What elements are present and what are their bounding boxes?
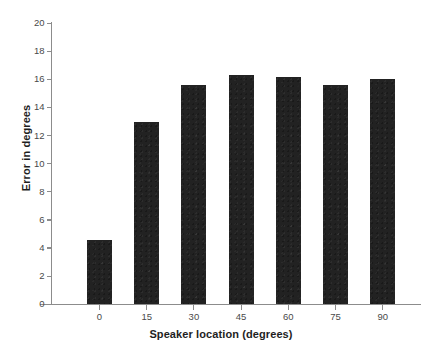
x-tick-mark [241, 305, 242, 310]
x-tick-mark [288, 305, 289, 310]
x-tick-label: 75 [330, 312, 341, 322]
bar [87, 240, 112, 305]
x-axis-title: Speaker location (degrees) [0, 328, 442, 340]
x-tick-label: 60 [283, 312, 294, 322]
bar [323, 85, 348, 304]
x-tick-mark [193, 305, 194, 310]
bar [134, 122, 159, 305]
x-tick-label: 90 [377, 312, 388, 322]
x-tick-label: 30 [189, 312, 200, 322]
x-tick-mark [146, 305, 147, 310]
bar [181, 85, 206, 304]
x-tick-label: 15 [141, 312, 152, 322]
x-tick-label: 0 [97, 312, 102, 322]
x-tick-mark [335, 305, 336, 310]
bar [370, 79, 395, 304]
x-tick-mark [99, 305, 100, 310]
bar-chart-figure: 02468101214161820 0153045607590 Error in… [0, 0, 442, 350]
plot-area [52, 22, 421, 305]
x-tick-mark [382, 305, 383, 310]
x-tick-label: 45 [236, 312, 247, 322]
y-axis-title: Error in degrees [20, 68, 32, 228]
bar [276, 77, 301, 305]
bar [229, 75, 254, 304]
